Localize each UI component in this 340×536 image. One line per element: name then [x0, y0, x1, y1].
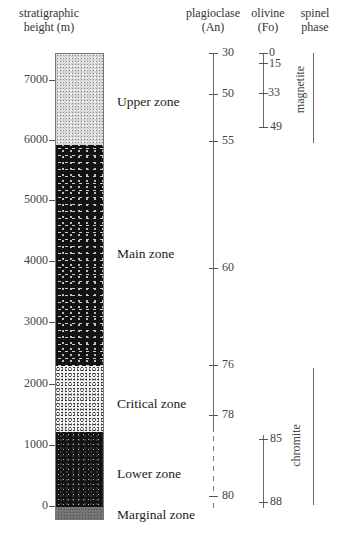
plagioclase-tick — [209, 496, 218, 497]
olivine-tick-label: 85 — [270, 431, 282, 446]
height-tick-label: 4000 — [4, 253, 48, 268]
height-axis-title: stratigraphic height (m) — [4, 6, 94, 34]
plagioclase-tick — [209, 365, 218, 366]
zone-label-marginal: Marginal zone — [117, 507, 195, 523]
zone-label-main: Main zone — [117, 246, 174, 262]
height-tick-label: 6000 — [4, 132, 48, 147]
magnetite-label: magnetite — [293, 50, 308, 130]
plagioclase-tick-label: 78 — [222, 407, 234, 422]
plagioclase-dash — [213, 503, 214, 508]
plagioclase-tick-label: 80 — [222, 488, 234, 503]
height-axis-title-line2: height (m) — [4, 20, 94, 34]
olivine-tick — [259, 53, 268, 54]
spinel-header-line1: spinel — [294, 6, 336, 20]
plagioclase-tick-label: 60 — [222, 260, 234, 275]
plagioclase-dash — [213, 466, 214, 471]
olivine-header-line2: (Fo) — [246, 20, 290, 34]
height-tick-label: 3000 — [4, 314, 48, 329]
zone-label-lower: Lower zone — [117, 466, 181, 482]
height-tick-label: 1000 — [4, 437, 48, 452]
upper-zone-block — [55, 53, 104, 145]
marginal-zone-block — [55, 507, 104, 520]
height-axis-title-line1: stratigraphic — [4, 6, 94, 20]
plagioclase-header: plagioclase (An) — [180, 6, 246, 34]
olivine-tick — [259, 502, 268, 503]
magnetite-range-line — [313, 53, 314, 143]
olivine-upper-line — [263, 53, 264, 127]
olivine-tick-label: 49 — [270, 119, 282, 134]
chromite-range-line — [313, 368, 314, 505]
plagioclase-tick-label: 50 — [222, 86, 234, 101]
height-tick-label: 2000 — [4, 376, 48, 391]
lower-zone-block — [55, 432, 104, 507]
plagioclase-tick-label: 76 — [222, 357, 234, 372]
olivine-tick — [259, 127, 268, 128]
olivine-tick — [259, 93, 268, 94]
critical-zone-block — [55, 366, 104, 432]
olivine-header-line1: olivine — [246, 6, 290, 20]
olivine-header: olivine (Fo) — [246, 6, 290, 34]
plagioclase-tick — [209, 415, 218, 416]
zone-label-upper: Upper zone — [117, 94, 180, 110]
plagioclase-solid-line — [213, 53, 214, 432]
plagioclase-dash — [213, 476, 214, 481]
spinel-header-line2: phase — [294, 20, 336, 34]
olivine-tick-label: 88 — [270, 494, 282, 509]
zone-label-critical: Critical zone — [117, 396, 186, 412]
plagioclase-tick — [209, 268, 218, 269]
plagioclase-tick-label: 30 — [222, 45, 234, 60]
plagioclase-tick-label: 55 — [222, 133, 234, 148]
plagioclase-dash — [213, 456, 214, 461]
olivine-lower-line — [263, 435, 264, 508]
spinel-header: spinel phase — [294, 6, 336, 34]
plagioclase-dash — [213, 446, 214, 451]
plagioclase-dash — [213, 486, 214, 491]
chromite-label: chromite — [289, 406, 304, 486]
plagioclase-tick — [209, 53, 218, 54]
height-tick-label: 5000 — [4, 192, 48, 207]
olivine-tick-label: 33 — [268, 85, 280, 100]
olivine-tick — [259, 63, 268, 64]
plagioclase-header-line1: plagioclase — [180, 6, 246, 20]
height-tick-label: 7000 — [4, 72, 48, 87]
plagioclase-header-line2: (An) — [180, 20, 246, 34]
main-zone-block — [55, 145, 104, 366]
olivine-tick-label: 15 — [269, 56, 281, 71]
height-tick-label: 0 — [4, 498, 48, 513]
plagioclase-dash — [213, 436, 214, 441]
plagioclase-tick — [209, 141, 218, 142]
olivine-tick — [259, 439, 268, 440]
plagioclase-tick — [209, 94, 218, 95]
